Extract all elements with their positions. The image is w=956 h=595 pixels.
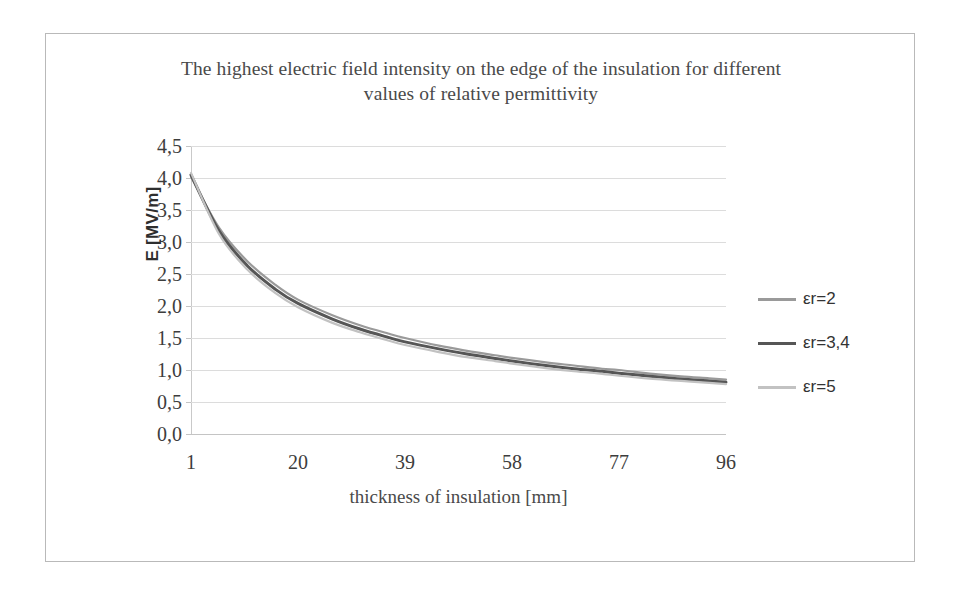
legend-item[interactable]: εr=2: [758, 277, 903, 321]
x-tick-label: 1: [186, 451, 196, 474]
x-axis-title: thickness of insulation [mm]: [191, 486, 726, 508]
legend-item[interactable]: εr=5: [758, 365, 903, 409]
figure-frame: The highest electric field intensity on …: [45, 33, 915, 562]
legend-swatch-icon: [758, 298, 796, 301]
y-tick-label: 0,0: [157, 423, 182, 446]
x-tick-label: 58: [502, 451, 522, 474]
legend-label: εr=2: [803, 289, 836, 309]
plot-area: 0,00,51,01,52,02,53,03,54,04,5 120395877…: [191, 146, 726, 434]
legend-item[interactable]: εr=3,4: [758, 321, 903, 365]
x-tick-label: 20: [288, 451, 308, 474]
y-tick-mark: [186, 434, 191, 435]
y-tick-label: 2,5: [157, 263, 182, 286]
x-tick-label: 96: [716, 451, 736, 474]
chart-title-line-1: The highest electric field intensity on …: [116, 56, 846, 81]
gridline: [191, 434, 726, 435]
y-tick-label: 2,0: [157, 295, 182, 318]
chart-title-line-2: values of relative permittivity: [116, 81, 846, 106]
y-tick-label: 3,0: [157, 231, 182, 254]
legend: εr=2εr=3,4εr=5: [758, 277, 903, 409]
legend-label: εr=3,4: [803, 333, 850, 353]
y-tick-label: 1,5: [157, 327, 182, 350]
legend-swatch-icon: [758, 386, 796, 389]
x-tick-label: 77: [609, 451, 629, 474]
chart-title: The highest electric field intensity on …: [116, 56, 846, 106]
y-tick-label: 4,5: [157, 135, 182, 158]
y-tick-label: 1,0: [157, 359, 182, 382]
legend-swatch-icon: [758, 342, 796, 345]
legend-label: εr=5: [803, 377, 836, 397]
x-tick-label: 39: [395, 451, 415, 474]
y-tick-label: 0,5: [157, 391, 182, 414]
y-tick-label: 4,0: [157, 167, 182, 190]
series-line: [191, 177, 726, 380]
y-tick-label: 3,5: [157, 199, 182, 222]
series-lines: [191, 146, 726, 434]
series-line: [191, 175, 726, 382]
